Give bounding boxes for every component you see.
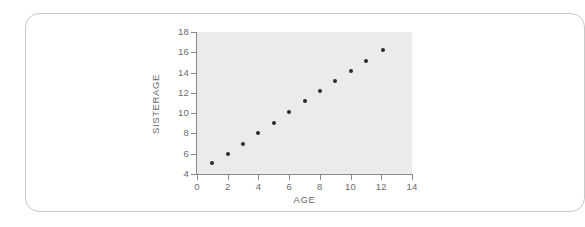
y-tick-label-text: 16	[167, 46, 189, 57]
y-axis-title: SISTERAGE	[150, 58, 162, 150]
x-tick-label: 2	[218, 181, 238, 192]
y-tick-label: 8	[163, 127, 189, 138]
y-tick-label: 14	[163, 67, 189, 78]
y-axis-line	[196, 32, 197, 175]
x-tick-mark	[351, 175, 352, 180]
x-tick-mark	[320, 175, 321, 180]
x-tick-label: 8	[310, 181, 330, 192]
y-tick-mark	[191, 133, 196, 134]
x-tick-label: 14	[402, 181, 422, 192]
x-tick-label: 12	[371, 181, 391, 192]
y-tick-label: 16	[163, 46, 189, 57]
data-point	[364, 59, 368, 63]
x-tick-label: 0	[187, 181, 207, 192]
y-tick-mark	[191, 113, 196, 114]
y-tick-mark	[191, 73, 196, 74]
y-tick-mark	[191, 32, 196, 33]
x-tick-mark	[258, 175, 259, 180]
data-point	[241, 142, 245, 146]
y-tick-mark	[191, 174, 196, 175]
data-point	[349, 69, 353, 73]
y-tick-label: 18	[163, 26, 189, 37]
x-tick-mark	[197, 175, 198, 180]
y-tick-label-text: 12	[167, 87, 189, 98]
data-point	[272, 121, 276, 125]
y-tick-mark	[191, 93, 196, 94]
x-tick-mark	[412, 175, 413, 180]
x-tick-mark	[228, 175, 229, 180]
x-tick-label: 4	[248, 181, 268, 192]
y-tick-label-text: 6	[167, 148, 189, 159]
y-tick-label-text: 8	[167, 127, 189, 138]
y-tick-label-text: 18	[167, 26, 189, 37]
y-tick-label: 6	[163, 148, 189, 159]
y-tick-label-text: 4	[167, 168, 189, 179]
y-tick-mark	[191, 154, 196, 155]
x-tick-label: 6	[279, 181, 299, 192]
y-tick-label-text: 10	[167, 107, 189, 118]
x-tick-mark	[289, 175, 290, 180]
y-tick-label-text: 14	[167, 67, 189, 78]
y-tick-mark	[191, 52, 196, 53]
y-tick-label: 10	[163, 107, 189, 118]
data-point	[226, 152, 230, 156]
x-tick-mark	[381, 175, 382, 180]
y-tick-label: 12	[163, 87, 189, 98]
y-tick-label: 4	[163, 168, 189, 179]
x-tick-label: 10	[341, 181, 361, 192]
x-axis-title: AGE	[197, 194, 412, 205]
